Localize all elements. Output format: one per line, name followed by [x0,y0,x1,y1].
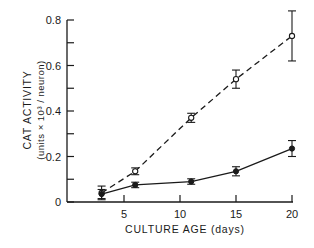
y-tick-label: 0.6 [46,60,61,72]
x-tick-label: 20 [286,208,298,220]
data-point-filled [189,179,194,184]
series-line [102,149,292,195]
y-tick-label: 0.8 [46,14,61,26]
data-point-open [133,169,138,174]
data-point-open [233,77,238,82]
y-tick-label: 0 [55,196,61,208]
y-axis-units: (units × 10³ / neuron) [35,60,46,159]
axes: 00.20.40.60.85101520 [46,14,298,220]
series-layer [98,11,296,200]
y-tick-label: 0.4 [46,105,61,117]
y-tick-label: 0.2 [46,151,61,163]
x-tick-label: 5 [121,208,127,220]
x-axis-title: CULTURE AGE (days) [125,223,245,235]
data-point-filled [133,182,138,187]
x-tick-label: 10 [174,208,186,220]
data-point-filled [233,169,238,174]
data-point-filled [289,146,294,151]
data-point-open [289,33,294,38]
series-filled-solid [98,141,296,199]
y-axis-title: CAT ACTIVITY [21,70,33,149]
data-point-filled [99,191,104,196]
chart: 00.20.40.60.85101520 CULTURE AGE (days) … [0,0,314,248]
series-open-dashed [98,11,296,200]
series-line [102,36,292,193]
data-point-open [189,115,194,120]
x-tick-label: 15 [230,208,242,220]
